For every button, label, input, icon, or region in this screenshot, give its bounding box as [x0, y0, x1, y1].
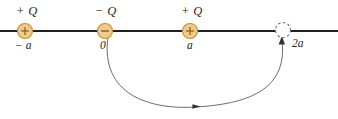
trajectory-direction-arrowhead — [192, 104, 200, 109]
charge-marker-right — [183, 24, 198, 39]
charge-marker-center — [98, 24, 113, 39]
charge-marker-left — [18, 24, 33, 39]
position-label-center: 0 — [100, 40, 106, 52]
diagram-canvas — [0, 0, 338, 119]
trajectory-arc — [107, 37, 282, 107]
target-position-dashed-circle — [276, 23, 291, 38]
position-label-right: a — [187, 40, 193, 52]
position-label-target: 2a — [292, 38, 304, 50]
position-label-left: − a — [15, 40, 31, 52]
charge-label-center: − Q — [95, 5, 117, 18]
charge-label-right: + Q — [181, 5, 203, 18]
charge-label-left: + Q — [16, 5, 38, 18]
physics-charge-diagram: + Q − Q + Q − a 0 a 2a — [0, 0, 338, 119]
